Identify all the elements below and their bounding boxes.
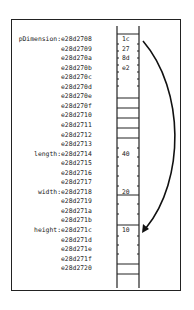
memory-column-graphics [0, 0, 194, 310]
pointer-arrow [143, 41, 175, 228]
byte-ticks [117, 44, 139, 254]
